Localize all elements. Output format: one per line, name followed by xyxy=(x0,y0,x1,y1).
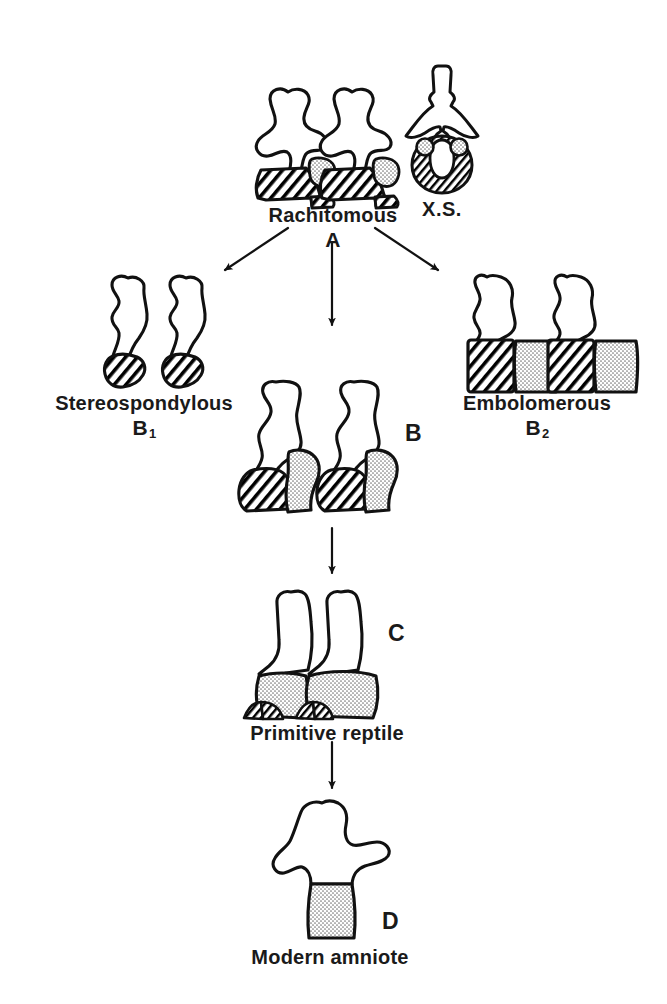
node-cross-section xyxy=(406,66,478,193)
label-cross-section: X.S. xyxy=(422,198,462,221)
label-intermediate-b-code: B xyxy=(405,420,422,447)
node-rachitomous xyxy=(256,89,399,208)
diagram-canvas xyxy=(0,0,667,1004)
node-intermediate-b xyxy=(239,381,397,512)
label-embolomerous-code-sub: 2 xyxy=(542,426,549,441)
arrow-a-to-b2 xyxy=(375,228,438,270)
node-modern-amniote xyxy=(273,801,389,938)
node-primitive-reptile xyxy=(244,591,378,719)
vertebra-evolution-diagram: Rachitomous A X.S. Stereospondylous B1 E… xyxy=(0,0,667,1004)
label-embolomerous-code-letter: B xyxy=(526,416,541,439)
label-primitive-reptile-code: C xyxy=(388,620,405,647)
node-embolomerous xyxy=(468,275,638,392)
label-modern-amniote-code: D xyxy=(382,908,399,935)
label-stereospondylous-code: B1 xyxy=(133,416,156,440)
node-stereospondylous xyxy=(104,276,205,387)
label-embolomerous-code: B2 xyxy=(526,416,549,440)
label-embolomerous-name: Embolomerous xyxy=(463,392,611,415)
arrow-a-to-b1 xyxy=(225,228,288,270)
label-stereospondylous-code-letter: B xyxy=(133,416,148,439)
label-rachitomous-name: Rachitomous xyxy=(269,204,398,227)
label-rachitomous-code: A xyxy=(325,228,340,252)
label-stereospondylous-name: Stereospondylous xyxy=(55,392,233,415)
label-modern-amniote-name: Modern amniote xyxy=(251,946,408,969)
label-primitive-reptile-name: Primitive reptile xyxy=(250,722,403,745)
label-stereospondylous-code-sub: 1 xyxy=(149,426,156,441)
